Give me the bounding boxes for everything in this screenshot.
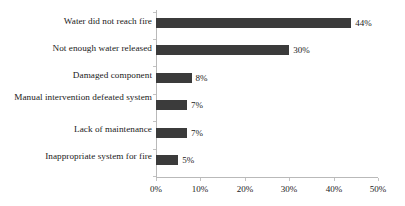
x-axis-tick-label: 30% bbox=[281, 184, 298, 195]
category-axis-labels: Water did not reach fire Not enough wate… bbox=[0, 0, 152, 168]
bar bbox=[156, 73, 192, 83]
bar-value-label: 30% bbox=[293, 45, 310, 55]
x-axis-tick bbox=[334, 178, 335, 181]
y-axis-tick bbox=[153, 12, 156, 13]
category-label: Inappropriate system for fire bbox=[0, 151, 152, 162]
category-label: Not enough water released bbox=[0, 43, 152, 54]
x-axis-tick bbox=[245, 178, 246, 181]
x-axis-line bbox=[156, 177, 378, 178]
x-axis-tick-label: 50% bbox=[370, 184, 387, 195]
y-axis-tick bbox=[153, 121, 156, 122]
x-axis-tick-label: 0% bbox=[150, 184, 162, 195]
x-axis-tick-label: 10% bbox=[192, 184, 209, 195]
category-label: Manual intervention defeated system bbox=[0, 92, 152, 103]
bar-chart: Water did not reach fire Not enough wate… bbox=[0, 0, 405, 206]
bar bbox=[156, 128, 187, 138]
x-axis-tick bbox=[200, 178, 201, 181]
y-axis-tick bbox=[153, 176, 156, 177]
x-axis-tick bbox=[156, 178, 157, 181]
bar bbox=[156, 18, 351, 28]
bar bbox=[156, 45, 289, 55]
bar bbox=[156, 100, 187, 110]
bar-value-label: 8% bbox=[196, 73, 208, 83]
bar-value-label: 44% bbox=[355, 18, 372, 28]
category-label: Water did not reach fire bbox=[0, 16, 152, 27]
y-axis-tick bbox=[153, 94, 156, 95]
y-axis-tick bbox=[153, 39, 156, 40]
x-axis-tick-label: 40% bbox=[326, 184, 343, 195]
bar-value-label: 7% bbox=[191, 100, 203, 110]
category-label: Lack of maintenance bbox=[0, 124, 152, 135]
y-axis-tick bbox=[153, 66, 156, 67]
x-axis-tick bbox=[289, 178, 290, 181]
plot-area: 44% 30% 8% 7% 7% 5% bbox=[156, 10, 378, 177]
bar-value-label: 5% bbox=[182, 155, 194, 165]
y-axis-tick bbox=[153, 149, 156, 150]
bar bbox=[156, 155, 178, 165]
bar-value-label: 7% bbox=[191, 128, 203, 138]
category-label: Damaged component bbox=[0, 70, 152, 81]
x-axis-tick bbox=[378, 178, 379, 181]
x-axis-tick-label: 20% bbox=[237, 184, 254, 195]
